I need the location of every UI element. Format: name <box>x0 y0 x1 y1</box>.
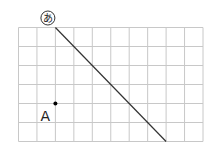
line-label-text: あ <box>43 13 53 24</box>
grid-diagram: あ A <box>0 0 217 154</box>
point-a-dot <box>53 102 57 106</box>
point-a-label: A <box>40 108 50 124</box>
line-label: あ <box>41 11 55 25</box>
